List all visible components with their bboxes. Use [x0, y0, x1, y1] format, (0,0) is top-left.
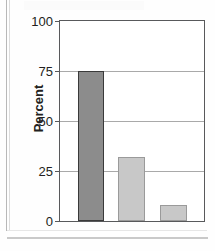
bar-3 — [160, 205, 187, 221]
bar-1 — [78, 71, 104, 221]
y-tick-mark-100 — [55, 21, 60, 22]
y-tick-label-50: 50 — [39, 115, 53, 128]
y-tick-label-0: 0 — [46, 215, 53, 228]
y-tick-mark-75 — [55, 71, 60, 72]
y-tick-label-100: 100 — [31, 15, 53, 28]
bar-2 — [118, 157, 145, 221]
y-tick-mark-25 — [55, 171, 60, 172]
y-tick-mark-50 — [55, 121, 60, 122]
page-border-left-inner — [9, 0, 10, 231]
gridline-0: 0 — [60, 221, 204, 222]
page-border-left — [6, 0, 7, 231]
bar-chart-plot-area: 100 75 50 25 0 — [59, 20, 205, 222]
page-rule-bottom-light — [7, 230, 207, 231]
y-tick-label-25: 25 — [39, 165, 53, 178]
gridline-100: 100 — [60, 21, 204, 22]
scan-artifact — [24, 1, 144, 10]
y-tick-mark-0 — [55, 221, 60, 222]
page-rule-bottom — [7, 237, 208, 239]
y-tick-label-75: 75 — [39, 65, 53, 78]
chart-page: Percent 100 75 50 25 0 — [0, 0, 215, 251]
